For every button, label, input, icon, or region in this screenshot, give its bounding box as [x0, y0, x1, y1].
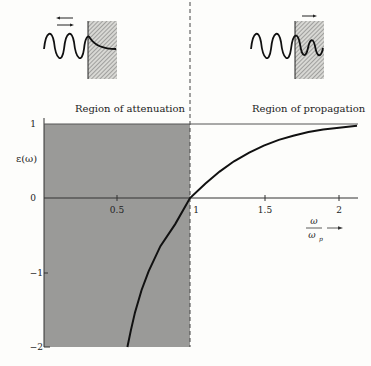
- y-tick-neg2: −2: [30, 342, 43, 352]
- x-tick-0-5: 0.5: [110, 205, 125, 215]
- y-tick-1: 1: [30, 119, 36, 129]
- region-propagation-label: Region of propagation: [252, 103, 366, 114]
- svg-text:ω: ω: [310, 216, 318, 226]
- svg-text:p: p: [319, 235, 323, 243]
- svg-text:ω: ω: [308, 230, 316, 240]
- x-axis-label: ω ω p: [306, 216, 343, 243]
- medium-block: [88, 21, 117, 79]
- attenuation-inset: [44, 17, 117, 80]
- x-tick-2: 2: [336, 205, 342, 215]
- dielectric-function-diagram: Region of attenuation Region of propagat…: [0, 0, 371, 366]
- y-tick-neg1: −1: [30, 268, 43, 278]
- y-tick-0: 0: [30, 193, 36, 203]
- y-axis-label: ε(ω): [16, 153, 37, 164]
- propagation-inset: [251, 15, 324, 80]
- medium-block: [295, 21, 324, 79]
- region-attenuation-label: Region of attenuation: [75, 103, 186, 114]
- x-tick-1: 1: [193, 205, 199, 215]
- x-tick-1-5: 1.5: [258, 205, 273, 215]
